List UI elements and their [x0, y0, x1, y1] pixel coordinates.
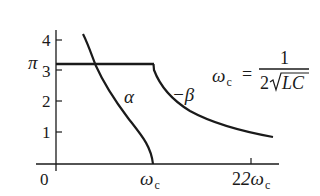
formula-equals: =	[242, 64, 252, 84]
dispersion-diagram: 4 3 2 1 π 0 ωc 22ωc α −β ωc = 1 2	[0, 0, 320, 196]
y-label-2: 2	[42, 92, 51, 111]
alpha-label: α	[124, 86, 135, 107]
formula-denominator-coeff: 2	[260, 73, 269, 93]
formula-lhs: ωc	[212, 65, 232, 89]
formula-numerator: 1	[280, 48, 289, 68]
y-label-4: 4	[42, 31, 51, 50]
y-label-pi: π	[28, 52, 38, 73]
x-label-2wc: 22ωc	[232, 168, 270, 192]
diagram-canvas: 4 3 2 1 π 0 ωc 22ωc α −β ωc = 1 2	[0, 0, 320, 196]
beta-label: −β	[172, 84, 195, 105]
y-label-1: 1	[42, 123, 51, 142]
formula-radicand: LC	[281, 73, 305, 93]
origin-label: 0	[40, 170, 49, 189]
y-label-3: 3	[42, 62, 51, 81]
x-label-wc: ωc	[140, 168, 160, 192]
cutoff-formula: ωc = 1 2 LC	[212, 48, 309, 93]
alpha-curve	[83, 34, 153, 164]
